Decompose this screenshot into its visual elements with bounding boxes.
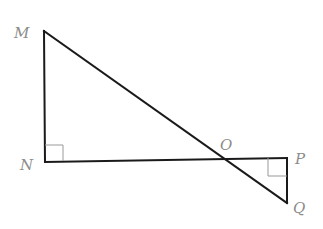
geometry-diagram: M N O P Q <box>0 0 323 229</box>
segment-mq <box>44 31 287 203</box>
right-angle-marker-n <box>45 145 63 161</box>
right-angle-marker-p <box>268 158 287 176</box>
segment-np <box>45 158 287 162</box>
label-q: Q <box>293 199 305 217</box>
label-n: N <box>19 156 34 174</box>
label-m: M <box>13 24 30 42</box>
label-o: O <box>220 136 232 154</box>
segment-mn <box>44 31 45 162</box>
label-p: P <box>294 150 306 168</box>
